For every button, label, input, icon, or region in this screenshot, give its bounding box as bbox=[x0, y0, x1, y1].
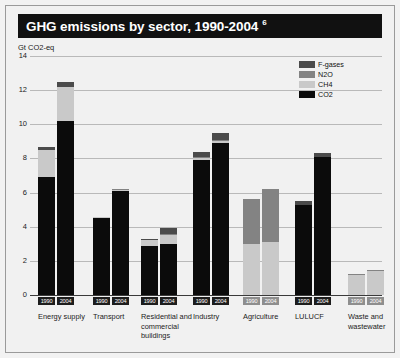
bar-group: 19902004Agriculture bbox=[243, 56, 279, 295]
bar-segment-ch4 bbox=[160, 235, 177, 244]
page-title: GHG emissions by sector, 1990-2004 bbox=[26, 19, 258, 34]
y-axis-tick-label: 6 bbox=[23, 189, 27, 197]
bar-lulucf-1990[interactable] bbox=[295, 201, 312, 295]
x-axis-year-label: 2004 bbox=[212, 297, 229, 305]
x-axis-year-label: 2004 bbox=[262, 297, 279, 305]
x-axis-category-label: Transport bbox=[93, 312, 145, 322]
chart-title-bar: GHG emissions by sector, 1990-2004 6 bbox=[18, 14, 382, 38]
x-axis-year-label: 2004 bbox=[314, 297, 331, 305]
legend-swatch-n2o bbox=[299, 71, 315, 78]
x-axis-line bbox=[30, 295, 382, 296]
bar-segment-co2 bbox=[193, 160, 210, 295]
bar-segment-f-gases bbox=[212, 133, 229, 140]
title-footnote-marker: 6 bbox=[262, 18, 266, 27]
x-axis-year-label: 1990 bbox=[93, 297, 110, 305]
bar-waste-and-wastewater-2004[interactable] bbox=[367, 270, 384, 295]
bar-segment-ch4 bbox=[57, 87, 74, 121]
bar-segment-co2 bbox=[112, 191, 129, 295]
legend-label: CO2 bbox=[318, 91, 333, 98]
x-axis-category-label: Energy supply bbox=[38, 312, 90, 322]
bar-segment-ch4 bbox=[262, 242, 279, 295]
legend-item: N2O bbox=[299, 70, 379, 79]
chart-legend: F-gasesN2OCH4CO2 bbox=[299, 60, 379, 100]
legend-item: F-gases bbox=[299, 60, 379, 69]
legend-swatch-f-gases bbox=[299, 61, 315, 68]
bar-transport-2004[interactable] bbox=[112, 189, 129, 295]
bar-segment-ch4 bbox=[38, 150, 55, 177]
bar-segment-co2 bbox=[212, 143, 229, 295]
y-axis-tick-label: 8 bbox=[23, 155, 27, 163]
legend-swatch-co2 bbox=[299, 91, 315, 98]
bar-segment-ch4 bbox=[348, 275, 365, 295]
legend-item: CH4 bbox=[299, 80, 379, 89]
bar-segment-ch4 bbox=[367, 271, 384, 295]
y-axis-tick-label: 14 bbox=[19, 52, 27, 60]
bar-lulucf-2004[interactable] bbox=[314, 153, 331, 295]
bar-group: 19902004Transport bbox=[93, 56, 129, 295]
x-axis-year-label: 2004 bbox=[112, 297, 129, 305]
x-axis-year-label: 1990 bbox=[193, 297, 210, 305]
x-axis-year-label: 2004 bbox=[367, 297, 384, 305]
bar-energy-supply-2004[interactable] bbox=[57, 82, 74, 295]
bar-residential-and-commercial-buildings-2004[interactable] bbox=[160, 228, 177, 295]
bar-group: 19902004Residential and commercial build… bbox=[141, 56, 177, 295]
y-axis-tick-label: 0 bbox=[23, 291, 27, 299]
x-axis-year-label: 2004 bbox=[160, 297, 177, 305]
bar-segment-ch4 bbox=[243, 244, 260, 295]
x-axis-year-label: 1990 bbox=[38, 297, 55, 305]
bar-segment-n2o bbox=[243, 199, 260, 243]
x-axis-year-label: 1990 bbox=[348, 297, 365, 305]
bar-segment-co2 bbox=[57, 121, 74, 295]
x-axis-year-label: 1990 bbox=[243, 297, 260, 305]
x-axis-category-label: Agriculture bbox=[243, 312, 295, 322]
bar-group: 19902004Energy supply bbox=[38, 56, 74, 295]
bar-agriculture-1990[interactable] bbox=[243, 199, 260, 295]
bar-group: 19902004Industry bbox=[193, 56, 229, 295]
y-axis-tick-label: 12 bbox=[19, 86, 27, 94]
x-axis-year-label: 1990 bbox=[295, 297, 312, 305]
bar-segment-n2o bbox=[262, 189, 279, 242]
x-axis-category-label: Waste and wastewater bbox=[348, 312, 400, 331]
bar-energy-supply-1990[interactable] bbox=[38, 147, 55, 296]
y-axis-tick-label: 2 bbox=[23, 257, 27, 265]
bar-waste-and-wastewater-1990[interactable] bbox=[348, 274, 365, 295]
legend-label: CH4 bbox=[318, 81, 332, 88]
bar-segment-co2 bbox=[93, 218, 110, 295]
x-axis-category-label: Industry bbox=[193, 312, 245, 322]
bar-segment-co2 bbox=[38, 177, 55, 295]
x-axis-year-label: 1990 bbox=[141, 297, 158, 305]
bar-industry-1990[interactable] bbox=[193, 152, 210, 295]
bar-transport-1990[interactable] bbox=[93, 217, 110, 296]
chart-screenshot: GHG emissions by sector, 1990-2004 6 Gt … bbox=[0, 0, 400, 358]
y-axis-tick-label: 10 bbox=[19, 121, 27, 129]
bar-segment-co2 bbox=[160, 244, 177, 295]
bar-agriculture-2004[interactable] bbox=[262, 189, 279, 295]
bar-segment-co2 bbox=[141, 246, 158, 296]
bar-industry-2004[interactable] bbox=[212, 133, 229, 295]
legend-label: F-gases bbox=[318, 61, 344, 68]
x-axis-category-label: LULUCF bbox=[295, 312, 347, 322]
bar-residential-and-commercial-buildings-1990[interactable] bbox=[141, 239, 158, 295]
x-axis-year-label: 2004 bbox=[57, 297, 74, 305]
legend-item: CO2 bbox=[299, 90, 379, 99]
x-axis-category-label: Residential and commercial buildings bbox=[141, 312, 193, 341]
y-axis-tick-label: 4 bbox=[23, 223, 27, 231]
legend-swatch-ch4 bbox=[299, 81, 315, 88]
bar-segment-co2 bbox=[314, 157, 331, 295]
bar-segment-co2 bbox=[295, 205, 312, 295]
legend-label: N2O bbox=[318, 71, 333, 78]
